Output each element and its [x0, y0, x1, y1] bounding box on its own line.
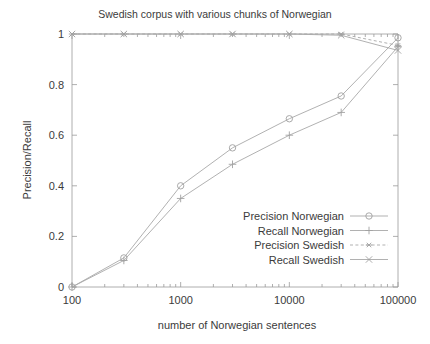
y-tick-label: 1 — [58, 28, 64, 40]
chart-background — [0, 0, 430, 344]
chart-title: Swedish corpus with various chunks of No… — [98, 8, 332, 20]
x-tick-label: 100000 — [380, 294, 417, 306]
legend-label: Precision Norwegian — [243, 210, 344, 222]
y-tick-label: 0.2 — [49, 230, 64, 242]
legend-label: Recall Swedish — [269, 254, 344, 266]
y-tick-label: 0 — [58, 281, 64, 293]
y-tick-label: 0.8 — [49, 79, 64, 91]
y-tick-label: 0.4 — [49, 180, 64, 192]
x-tick-label: 10000 — [274, 294, 305, 306]
x-axis-title: number of Norwegian sentences — [158, 319, 317, 331]
x-tick-label: 100 — [63, 294, 81, 306]
chart-container: Swedish corpus with various chunks of No… — [0, 0, 430, 344]
y-tick-label: 0.6 — [49, 129, 64, 141]
x-tick-label: 1000 — [168, 294, 192, 306]
legend-label: Precision Swedish — [254, 239, 344, 251]
precision-recall-line-chart: Swedish corpus with various chunks of No… — [0, 0, 430, 344]
y-axis-title: Precision/Recall — [21, 121, 33, 200]
legend-label: Recall Norwegian — [258, 225, 344, 237]
